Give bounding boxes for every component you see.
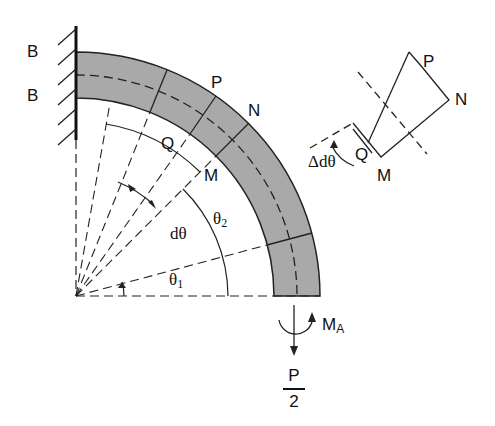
- label-load-P-over-2: P 2: [283, 366, 305, 412]
- load-arrowhead: [290, 346, 298, 356]
- label-B-top: B: [27, 43, 38, 60]
- dtheta-arc: [118, 182, 154, 205]
- label-P: P: [211, 74, 222, 91]
- moment-arc: [279, 320, 312, 334]
- label-B-bottom: B: [27, 87, 38, 104]
- inset-label-P: P: [423, 53, 434, 70]
- label-dtheta: dθ: [170, 225, 187, 242]
- label-N: N: [248, 102, 260, 119]
- wall-hatching: [58, 29, 76, 145]
- inset-label-Q: Q: [355, 146, 368, 163]
- inset-label-delta-dtheta: Δdθ: [308, 153, 336, 170]
- label-theta1: θ1: [169, 271, 183, 290]
- curved-beam-diagram: B B P N Q M θ2 dθ θ1 MA P 2 P N Q M Δdθ: [0, 0, 495, 426]
- inset-arrowhead: [330, 140, 338, 148]
- label-M: M: [204, 167, 218, 184]
- inset-label-M: M: [377, 167, 391, 184]
- label-Q: Q: [161, 135, 174, 152]
- label-theta2: θ2: [213, 210, 227, 229]
- label-moment-MA: MA: [322, 316, 344, 335]
- moment-arrowhead: [308, 312, 316, 322]
- inset-label-N: N: [455, 91, 467, 108]
- diagram-graphics: [0, 0, 495, 426]
- theta2-arc: [183, 189, 228, 296]
